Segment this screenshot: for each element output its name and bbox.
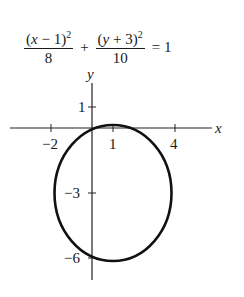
x-tick-label-1: 1 — [109, 136, 117, 152]
x-tick-label--2: −2 — [42, 136, 58, 152]
ellipse-graph: x y −2 1 4 1 −3 −6 — [0, 0, 244, 297]
y-tick-label--6: −6 — [64, 250, 80, 266]
y-tick-label-1: 1 — [78, 99, 86, 115]
y-axis-label: y — [85, 66, 94, 82]
x-axis-label: x — [214, 120, 222, 136]
x-tick-label-4: 4 — [170, 136, 178, 152]
y-tick-label--3: −3 — [64, 185, 80, 201]
